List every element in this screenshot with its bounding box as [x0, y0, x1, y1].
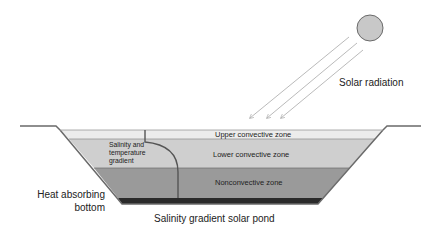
solar-ray-1 [250, 37, 349, 118]
heat-absorbing-label-line2: bottom [74, 202, 105, 213]
ground-right [383, 126, 421, 130]
gradient-label-line2: temperature [109, 149, 146, 157]
solar-pond-diagram: Solar radiation Upper convective zone Lo… [0, 0, 439, 233]
heat-absorbing-bottom [118, 198, 323, 204]
heat-absorbing-label-line1: Heat absorbing [37, 189, 105, 200]
gradient-label-line3: gradient [109, 157, 134, 165]
solar-radiation-label: Solar radiation [339, 77, 403, 88]
diagram-caption: Salinity gradient solar pond [154, 213, 275, 224]
sun-icon [357, 15, 383, 41]
ground-left [20, 126, 60, 130]
upper-zone-label: Upper convective zone [215, 130, 291, 139]
gradient-label-line1: Salinity and [109, 141, 144, 149]
lower-zone-label: Lower convective zone [213, 150, 289, 159]
nonconvective-zone-label: Nonconvective zone [215, 178, 283, 187]
